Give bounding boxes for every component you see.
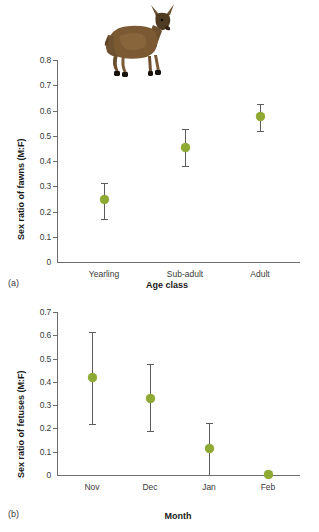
errorcap-bottom-nov — [89, 424, 96, 425]
y-tick-0.3-b — [53, 405, 57, 406]
y-tick-0.7-b — [53, 312, 57, 313]
y-tick-0.8-a — [53, 60, 57, 61]
y-tick-0.7-a — [53, 85, 57, 86]
data-point-sub-adult[interactable] — [181, 143, 190, 152]
panel-label-b: (b) — [8, 509, 19, 519]
y-tick-0.3-a — [53, 186, 57, 187]
y-tick-label-a-6: 0.6 — [19, 106, 51, 116]
y-tick-0.1-b — [53, 452, 57, 453]
y-tick-label-b-6: 0.6 — [19, 330, 51, 340]
y-tick-label-a-0: 0 — [19, 257, 51, 267]
y-tick-label-a-8: 0.8 — [19, 55, 51, 65]
x-tick-label-adult: Adult — [220, 269, 300, 279]
errorcap-bottom-adult — [257, 131, 264, 132]
errorcap-top-sub-adult — [182, 129, 189, 130]
y-axis-line-b — [57, 312, 58, 475]
errorcap-top-nov — [89, 332, 96, 333]
panel-a: 0.8 0.7 0.6 0.5 0.4 0.3 0.2 0.1 0 — [0, 0, 319, 300]
errorcap-bottom-dec — [147, 431, 154, 432]
y-tick-0.4-a — [53, 161, 57, 162]
y-tick-0.2-a — [53, 212, 57, 213]
y-tick-label-b-7: 0.7 — [19, 307, 51, 317]
panel-label-a: (a) — [8, 278, 19, 288]
plot-area-a: 0.8 0.7 0.6 0.5 0.4 0.3 0.2 0.1 0 — [57, 60, 300, 262]
y-tick-0.2-b — [53, 428, 57, 429]
errorcap-bottom-yearling — [101, 219, 108, 220]
y-axis-line-a — [57, 60, 58, 262]
data-point-dec[interactable] — [146, 394, 155, 403]
figure-container: 0.8 0.7 0.6 0.5 0.4 0.3 0.2 0.1 0 — [0, 0, 319, 532]
x-tick-label-yearling: Yearling — [64, 269, 144, 279]
x-tick-label-sub-adult: Sub-adult — [145, 269, 225, 279]
errorcap-top-jan — [206, 423, 213, 424]
y-axis-title-a: Sex ratio of fawns (M:F) — [16, 138, 26, 240]
y-tick-0.6-a — [53, 111, 57, 112]
errorcap-top-dec — [147, 364, 154, 365]
data-point-feb[interactable] — [264, 470, 273, 479]
x-tick-label-feb: Feb — [228, 482, 308, 492]
data-point-nov[interactable] — [88, 373, 97, 382]
data-point-jan[interactable] — [205, 444, 214, 453]
y-tick-0.5-b — [53, 359, 57, 360]
data-point-yearling[interactable] — [100, 195, 109, 204]
data-point-adult[interactable] — [256, 112, 265, 121]
y-tick-label-b-5: 0.5 — [19, 354, 51, 364]
x-axis-line-a — [57, 262, 300, 263]
y-tick-0.5-a — [53, 136, 57, 137]
y-tick-0.1-a — [53, 237, 57, 238]
errorcap-bottom-sub-adult — [182, 166, 189, 167]
y-axis-title-b: Sex ratio of fetuses (M:F) — [16, 370, 26, 478]
panel-b: 0.7 0.6 0.5 0.4 0.3 0.2 0.1 0 Nov — [0, 300, 319, 532]
x-axis-title-b: Month — [118, 511, 238, 521]
y-tick-0.6-b — [53, 335, 57, 336]
plot-area-b: 0.7 0.6 0.5 0.4 0.3 0.2 0.1 0 Nov — [57, 312, 300, 475]
x-axis-title-a: Age class — [107, 280, 227, 290]
errorcap-top-yearling — [101, 183, 108, 184]
errorcap-top-adult — [257, 104, 264, 105]
y-tick-label-a-7: 0.7 — [19, 80, 51, 90]
y-tick-0.4-b — [53, 382, 57, 383]
